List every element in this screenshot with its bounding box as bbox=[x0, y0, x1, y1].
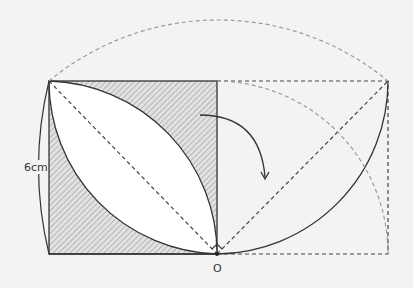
rotated-square-diagonal bbox=[217, 81, 388, 254]
geometry-diagram: 6cm O bbox=[0, 0, 413, 288]
origin-label: O bbox=[213, 262, 222, 275]
side-length-label: 6cm bbox=[24, 161, 48, 174]
origin-point bbox=[215, 252, 219, 256]
large-dashed-arc bbox=[49, 20, 388, 81]
